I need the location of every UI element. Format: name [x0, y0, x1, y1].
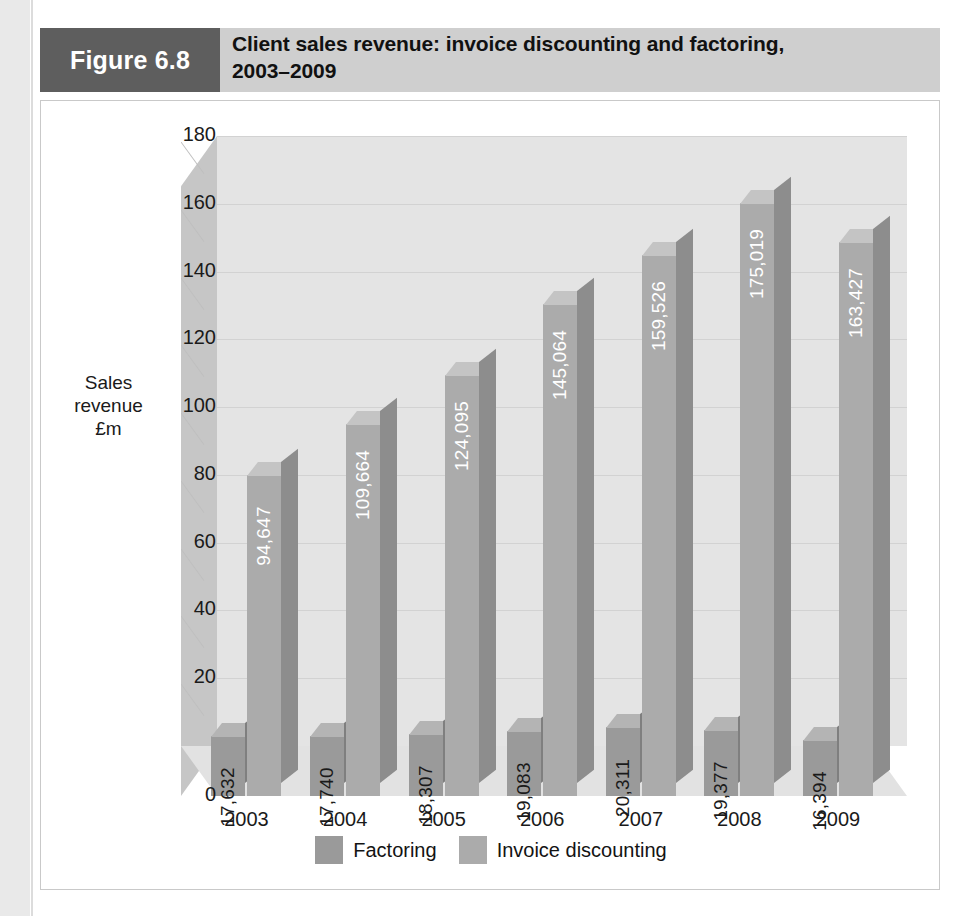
legend-swatch-icon	[459, 836, 487, 864]
bar-value-label: 94,647	[253, 507, 275, 566]
bar-side-face	[873, 216, 890, 783]
bar-side-face	[676, 229, 693, 783]
bar-side-face	[577, 278, 594, 783]
figure-number-tag: Figure 6.8	[40, 28, 220, 92]
x-tick-label-2006: 2006	[497, 808, 587, 831]
bar-invoice-discounting-2008: 175,019	[740, 203, 774, 796]
bar-value-label: 159,526	[648, 281, 670, 351]
chart-legend: FactoringInvoice discounting	[41, 836, 941, 864]
y-axis-title-line: Sales	[51, 371, 166, 394]
x-tick-label-2003: 2003	[201, 808, 291, 831]
bar-factoring-2008: 19,377	[704, 730, 738, 796]
x-tick-label-2007: 2007	[596, 808, 686, 831]
y-tick-label: 0	[156, 783, 216, 806]
figure-page: Figure 6.8 Client sales revenue: invoice…	[0, 0, 967, 916]
gridline	[217, 204, 907, 205]
bar-invoice-discounting-2009: 163,427	[839, 242, 873, 796]
legend-item-invoice-discounting[interactable]: Invoice discounting	[459, 836, 667, 864]
y-axis-ticks: 020406080100120140160180	[96, 101, 216, 891]
y-axis-title-line: £m	[51, 417, 166, 440]
bar-invoice-discounting-2003: 94,647	[247, 475, 281, 796]
y-tick-label: 20	[156, 665, 216, 688]
gridline	[217, 136, 907, 137]
bar-side-face	[281, 449, 298, 783]
bar-factoring-2007: 20,311	[606, 727, 640, 796]
bar-invoice-discounting-2006: 145,064	[543, 304, 577, 796]
x-tick-label-2005: 2005	[399, 808, 489, 831]
paper-left-rule	[31, 0, 33, 916]
y-axis-title: Salesrevenue£m	[51, 371, 166, 440]
bar-value-label: 109,664	[352, 450, 374, 520]
y-tick-label: 160	[156, 191, 216, 214]
figure-title-line1: Client sales revenue: invoice discountin…	[232, 32, 784, 55]
figure-title: Client sales revenue: invoice discountin…	[232, 30, 932, 84]
bar-side-face	[380, 398, 397, 783]
bar-side-face	[774, 177, 791, 783]
bar-invoice-discounting-2004: 109,664	[346, 424, 380, 796]
x-tick-label-2008: 2008	[694, 808, 784, 831]
bar-value-label: 175,019	[746, 229, 768, 299]
bar-factoring-2003: 17,632	[211, 736, 245, 796]
figure-title-line2: 2003–2009	[232, 57, 932, 84]
legend-label: Invoice discounting	[497, 839, 667, 862]
chart-frame: 17,63294,64717,740109,66418,307124,09519…	[40, 100, 940, 890]
bar-factoring-2009: 16,394	[803, 740, 837, 796]
x-tick-label-2009: 2009	[793, 808, 883, 831]
legend-swatch-icon	[315, 836, 343, 864]
y-tick-label: 180	[156, 123, 216, 146]
bar-factoring-2006: 19,083	[507, 731, 541, 796]
y-tick-label: 40	[156, 597, 216, 620]
x-tick-label-2004: 2004	[300, 808, 390, 831]
bar-invoice-discounting-2007: 159,526	[642, 255, 676, 796]
bar-value-label: 124,095	[451, 401, 473, 471]
chart-plot-area: 17,63294,64717,740109,66418,307124,09519…	[41, 101, 941, 891]
legend-label: Factoring	[353, 839, 436, 862]
y-tick-label: 60	[156, 530, 216, 553]
bar-value-label: 145,064	[549, 330, 571, 400]
bar-value-label: 163,427	[845, 268, 867, 338]
bar-invoice-discounting-2005: 124,095	[445, 375, 479, 796]
y-tick-label: 140	[156, 259, 216, 282]
legend-item-factoring[interactable]: Factoring	[315, 836, 436, 864]
bar-factoring-2004: 17,740	[310, 736, 344, 796]
gridline	[217, 272, 907, 273]
y-tick-label: 80	[156, 462, 216, 485]
y-axis-title-line: revenue	[51, 394, 166, 417]
bar-side-face	[479, 349, 496, 783]
y-tick-label: 120	[156, 326, 216, 349]
bar-factoring-2005: 18,307	[409, 734, 443, 796]
